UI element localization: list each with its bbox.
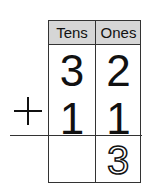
addend1-ones: 2 — [96, 49, 141, 93]
header-tens: Tens — [49, 21, 95, 44]
plus-icon — [14, 97, 42, 125]
sum-line — [10, 135, 142, 136]
header-ones: Ones — [96, 21, 141, 44]
addend1-tens: 3 — [49, 49, 95, 93]
sum-ones-dotted: 3 — [103, 140, 133, 180]
